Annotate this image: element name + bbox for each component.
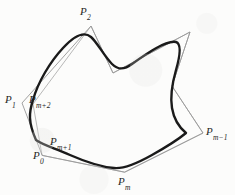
label-base: P: [5, 93, 12, 105]
point-label-p0: P0: [33, 150, 44, 164]
label-base: P: [206, 125, 213, 137]
point-label-pm-1: Pm+1: [50, 136, 71, 150]
point-label-pm: Pm: [118, 176, 130, 190]
label-subscript: m−1: [213, 133, 228, 142]
label-subscript: 2: [87, 13, 91, 22]
label-base: P: [50, 135, 57, 147]
figure-canvas: P2P1Pm+2Pm−1Pm+1P0Pm: [0, 0, 235, 195]
point-label-pm-1: Pm−1: [206, 126, 227, 140]
point-label-p1: P1: [5, 94, 16, 108]
label-subscript: m+1: [57, 143, 72, 152]
label-base: P: [80, 5, 87, 17]
point-label-p2: P2: [80, 6, 91, 20]
label-base: P: [33, 149, 40, 161]
label-base: P: [29, 93, 36, 105]
label-subscript: 1: [12, 101, 16, 110]
label-subscript: 0: [40, 157, 44, 166]
label-subscript: m+2: [36, 101, 51, 110]
point-label-pm-2: Pm+2: [29, 94, 50, 108]
label-subscript: m: [125, 183, 131, 192]
label-base: P: [118, 175, 125, 187]
